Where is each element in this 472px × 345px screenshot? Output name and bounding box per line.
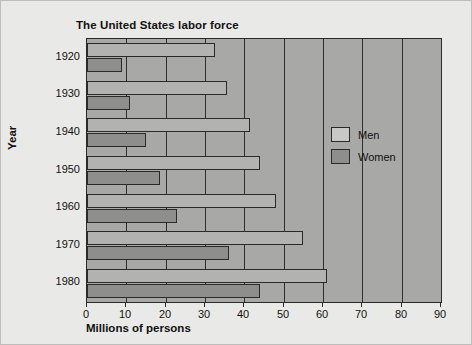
chart-title: The United States labor force [76,19,239,31]
x-tick-label-90: 90 [434,308,446,320]
x-tick-mark-40 [243,302,244,307]
y-tick-1950: 1950 [56,163,80,175]
y-tick-1920: 1920 [56,50,80,62]
x-tick-mark-70 [361,302,362,307]
y-tick-1980: 1980 [56,275,80,287]
x-tick-mark-90 [440,302,441,307]
x-tick-mark-50 [283,302,284,307]
bars-layer [87,39,441,302]
bar-men-1950 [87,156,260,170]
bar-women-1980 [87,284,260,298]
plot-area: Men Women [86,38,442,303]
y-tick-1970: 1970 [56,238,80,250]
legend-label-women: Women [358,151,396,163]
x-tick-mark-60 [322,302,323,307]
bar-men-1930 [87,81,227,95]
bar-women-1920 [87,58,122,72]
bar-men-1970 [87,231,303,245]
x-tick-label-0: 0 [83,308,89,320]
y-tick-1960: 1960 [56,200,80,212]
legend-item-men[interactable]: Men [331,125,435,144]
legend-label-men: Men [358,129,379,141]
x-tick-label-20: 20 [159,308,171,320]
chart-figure: The United States labor force Year 19201… [0,0,472,345]
x-tick-label-70: 70 [355,308,367,320]
x-tick-label-10: 10 [119,308,131,320]
chart-legend: Men Women [331,125,435,169]
bar-men-1940 [87,118,250,132]
x-tick-label-80: 80 [395,308,407,320]
x-tick-mark-30 [204,302,205,307]
x-tick-mark-20 [165,302,166,307]
x-tick-label-30: 30 [198,308,210,320]
y-tick-1940: 1940 [56,125,80,137]
bar-women-1950 [87,171,160,185]
legend-item-women[interactable]: Women [331,147,435,166]
x-tick-mark-10 [125,302,126,307]
y-axis-tick-labels: 1920193019401950196019701980 [0,38,80,301]
bar-men-1960 [87,194,276,208]
gridline-90 [441,39,442,302]
x-tick-label-40: 40 [237,308,249,320]
bar-women-1940 [87,133,146,147]
bar-women-1930 [87,96,130,110]
bar-women-1970 [87,246,229,260]
x-tick-label-50: 50 [277,308,289,320]
x-axis-tick-labels: 0102030405060708090 [86,302,440,322]
bar-women-1960 [87,209,177,223]
legend-swatch-men-icon [331,127,350,142]
x-tick-mark-0 [86,302,87,307]
bar-men-1980 [87,269,327,283]
x-tick-mark-80 [401,302,402,307]
bar-men-1920 [87,43,215,57]
legend-swatch-women-icon [331,149,350,164]
x-axis-title: Millions of persons [86,322,191,334]
y-tick-1930: 1930 [56,87,80,99]
x-tick-label-60: 60 [316,308,328,320]
